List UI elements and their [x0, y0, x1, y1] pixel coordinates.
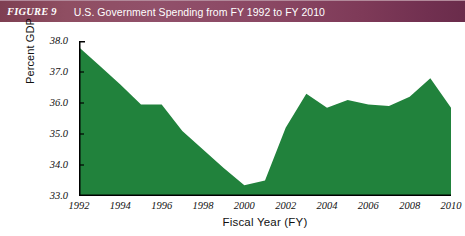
- area-series-path: [79, 47, 451, 196]
- figure-number-label: FIGURE 9: [7, 6, 57, 17]
- y-tick-label: 37.0: [34, 67, 68, 77]
- x-tick-label: 1994: [100, 200, 140, 211]
- y-tick-label: 38.0: [34, 36, 68, 46]
- x-tick-label: 1992: [59, 200, 99, 211]
- area-series-group: [79, 47, 451, 196]
- y-tick-label: 36.0: [34, 98, 68, 108]
- x-tick-label: 2000: [224, 200, 264, 211]
- y-tick-label: 35.0: [34, 129, 68, 139]
- x-tick-label: 2010: [431, 200, 465, 211]
- y-tick-label: 34.0: [34, 160, 68, 170]
- x-tick-label: 1996: [142, 200, 182, 211]
- figure-header-bar: FIGURE 9 U.S. Government Spending from F…: [0, 0, 465, 22]
- area-chart-plot: [79, 41, 451, 196]
- chart-region: Percent GDP 38.037.036.035.034.033.0 199…: [0, 22, 465, 236]
- x-tick-label: 2006: [348, 200, 388, 211]
- x-tick-label: 2008: [390, 200, 430, 211]
- x-tick-label: 1998: [183, 200, 223, 211]
- x-axis-tick-labels: 1992199419961998200020022004200620082010: [79, 200, 451, 216]
- x-tick-label: 2002: [266, 200, 306, 211]
- x-axis-title: Fiscal Year (FY): [79, 216, 451, 228]
- figure-title: U.S. Government Spending from FY 1992 to…: [74, 6, 325, 18]
- x-tick-label: 2004: [307, 200, 347, 211]
